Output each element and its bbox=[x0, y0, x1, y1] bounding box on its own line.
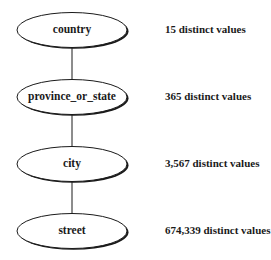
concept-hierarchy-diagram: country province_or_state city street 15… bbox=[0, 0, 271, 260]
node-city-label: city bbox=[63, 157, 81, 170]
node-province-or-state-label: province_or_state bbox=[28, 90, 116, 103]
node-street-label: street bbox=[58, 224, 85, 236]
node-province-or-state: province_or_state bbox=[17, 80, 129, 116]
count-province-or-state: 365 distinct values bbox=[165, 90, 252, 102]
count-country: 15 distinct values bbox=[165, 23, 246, 35]
node-city: city bbox=[17, 147, 129, 183]
node-country: country bbox=[17, 13, 129, 49]
count-city: 3,567 distinct values bbox=[165, 157, 260, 169]
node-country-label: country bbox=[53, 23, 92, 36]
count-street: 674,339 distinct values bbox=[165, 224, 271, 236]
count-labels: 15 distinct values 365 distinct values 3… bbox=[165, 23, 271, 236]
node-street: street bbox=[17, 214, 129, 250]
